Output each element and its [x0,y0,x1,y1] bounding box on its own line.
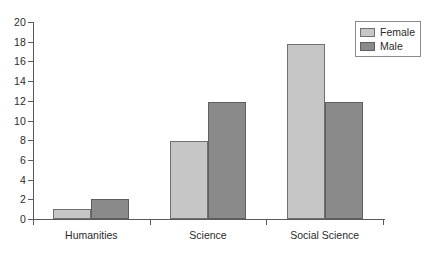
y-axis-tick-label: 4 [0,175,26,185]
y-axis-tick-label: 12 [0,96,26,106]
y-axis-tick-label: 6 [0,155,26,165]
bar-humanities-female [53,209,91,219]
y-axis-tick-label: 20 [0,17,26,27]
bar-chart: 02468101214161820 HumanitiesScienceSocia… [0,0,428,256]
x-axis-label-science: Science [189,229,226,241]
plot-area [33,22,383,219]
legend-entry-female: Female [360,25,415,39]
x-axis-tick [33,220,34,225]
y-axis-tick-label: 16 [0,56,26,66]
x-axis-line [33,219,385,220]
x-axis-label-social-science: Social Science [290,229,359,241]
y-axis-tick-label: 14 [0,76,26,86]
bar-humanities-male [91,199,129,219]
x-axis-tick [266,220,267,225]
legend-label-female: Female [380,27,415,38]
legend-swatch-male-icon [360,42,375,51]
legend-swatch-female-icon [360,28,375,37]
y-axis-tick-label: 18 [0,37,26,47]
x-axis-tick [383,220,384,225]
x-axis-label-humanities: Humanities [65,229,118,241]
bar-social-science-female [287,44,325,219]
y-axis-tick-label: 8 [0,135,26,145]
legend: Female Male [355,21,421,57]
legend-label-male: Male [380,41,403,52]
bar-social-science-male [325,102,363,219]
x-axis-tick [150,220,151,225]
y-axis-tick-label: 2 [0,194,26,204]
bar-science-female [170,141,208,219]
y-axis-tick-label: 10 [0,116,26,126]
bar-science-male [208,102,246,219]
legend-entry-male: Male [360,39,415,53]
y-axis-tick-label: 0 [0,214,26,224]
